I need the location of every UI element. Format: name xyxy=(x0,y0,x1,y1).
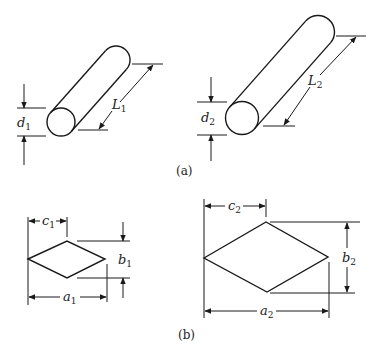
cylinder-1 xyxy=(47,46,130,136)
rhombus-1 xyxy=(28,241,105,278)
d2-label: d2 xyxy=(201,110,215,127)
rhombus-2 xyxy=(204,222,328,292)
L1-label: L1 xyxy=(111,97,126,114)
a2-label: a2 xyxy=(260,303,274,320)
b1-label: b1 xyxy=(118,252,132,269)
c2-label: c2 xyxy=(228,198,241,215)
b2-label: b2 xyxy=(342,250,356,267)
rhombus-1-dimensions: c1 b1 a1 xyxy=(28,213,132,306)
L2-label: L2 xyxy=(307,73,322,90)
cylinder-2 xyxy=(226,16,335,135)
figure-canvas: d1 L1 d2 L2 (a) c1 xyxy=(0,0,384,351)
rhombus-2-dimensions: c2 b2 a2 xyxy=(204,198,360,320)
caption-b: (b) xyxy=(178,328,195,342)
cylinder-1-diameter-dimension: d1 xyxy=(17,84,46,165)
cylinder-1-length-dimension: L1 xyxy=(78,64,163,130)
c1-label: c1 xyxy=(42,213,55,230)
d1-label: d1 xyxy=(17,115,31,132)
cylinder-2-diameter-dimension: d2 xyxy=(197,77,227,161)
cylinder-2-length-dimension: L2 xyxy=(263,36,366,126)
a1-label: a1 xyxy=(63,289,77,306)
caption-a: (a) xyxy=(176,164,193,178)
